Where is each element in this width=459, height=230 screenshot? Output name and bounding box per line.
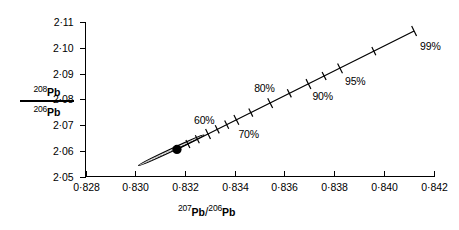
mixing-line: [177, 31, 414, 149]
x-axis-ticks: [87, 171, 435, 177]
x-denominator-element: Pb: [222, 206, 235, 218]
y-axis-title-denominator: 206Pb: [14, 103, 80, 118]
x-tick-label: 0·832: [162, 182, 210, 193]
data-point: [172, 145, 181, 154]
y-axis-ticks: [80, 23, 86, 178]
x-numerator-element: Pb: [192, 206, 205, 218]
x-numerator-superscript: 207: [178, 203, 192, 213]
y-numerator-superscript: 208: [33, 84, 47, 94]
x-tick-label: 0·842: [411, 182, 459, 193]
x-tick-label: 0·834: [212, 182, 260, 193]
percent-label: 70%: [238, 129, 258, 140]
y-tick-label: 2·08: [28, 94, 74, 105]
percent-label: 90%: [312, 91, 332, 102]
y-tick-label: 2·06: [28, 146, 74, 157]
percent-label: 60%: [194, 115, 214, 126]
x-tick-label: 0·840: [361, 182, 409, 193]
figure-container: 208Pb 206Pb 207Pb/206Pb 2·052·062·072·08…: [0, 0, 459, 230]
x-tick-label: 0·836: [261, 182, 309, 193]
y-tick-label: 2·07: [28, 120, 74, 131]
error-ellipse: [138, 134, 204, 167]
y-tick-label: 2·10: [28, 43, 74, 54]
x-denominator-superscript: 206: [208, 203, 222, 213]
x-tick-label: 0·828: [63, 182, 111, 193]
axis-lines: [85, 22, 434, 177]
y-denominator-element: Pb: [47, 106, 60, 118]
x-tick-label: 0·838: [311, 182, 359, 193]
y-denominator-superscript: 206: [33, 104, 47, 114]
y-tick-label: 2·09: [28, 69, 74, 80]
x-tick-label: 0·830: [112, 182, 160, 193]
y-tick-label: 2·11: [28, 17, 74, 28]
percent-label: 95%: [345, 76, 365, 87]
x-axis-title: 207Pb/206Pb: [178, 203, 235, 219]
percent-label: 99%: [420, 41, 440, 52]
percent-label: 80%: [254, 83, 274, 94]
